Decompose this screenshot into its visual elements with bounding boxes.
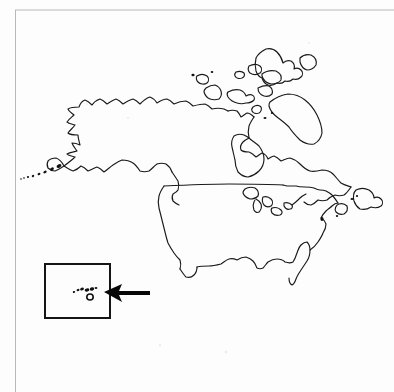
map-figure-canvas (0, 0, 394, 392)
island-lanai-icon (95, 287, 98, 289)
greenland-edge (300, 55, 316, 70)
st-lawrence-river (292, 194, 306, 205)
lake-michigan (253, 199, 261, 212)
us-east-coast (310, 203, 338, 250)
border-49th-parallel (164, 184, 283, 186)
alaska-peninsula-tip (47, 158, 64, 171)
nova-scotia (335, 204, 347, 215)
hudson-bay (232, 134, 264, 177)
gulf-st-lawrence-coast (304, 187, 351, 205)
lake-huron (262, 197, 272, 207)
somerset-island (262, 71, 281, 84)
lake-erie (271, 208, 282, 216)
island-maui-icon (90, 287, 95, 291)
region-contiguous-united-states (158, 185, 338, 285)
northeast-coast (283, 185, 338, 203)
newfoundland (353, 189, 382, 210)
island-hawaii-big-island-icon (87, 294, 93, 300)
canada-northeast-coast (241, 117, 351, 187)
gulf-coast-and-florida (197, 242, 310, 285)
paper-specks (86, 42, 310, 353)
alaska-south-coast (64, 160, 172, 172)
alaska-north-coast (64, 97, 228, 166)
victoria-island (227, 90, 254, 104)
hawaii-inset-group[interactable] (45, 264, 110, 318)
region-canada (191, 49, 382, 217)
prince-of-wales-island (258, 86, 272, 97)
southampton-small-island (252, 106, 262, 114)
hawaiian-islands-group (73, 287, 98, 300)
lake-superior (243, 187, 258, 199)
small-arctic-island-a (196, 75, 208, 85)
lake-ontario (284, 203, 292, 210)
island-niihau-icon (76, 288, 80, 291)
island-oahu-icon (80, 287, 85, 291)
us-west-coast (158, 186, 181, 269)
region-alaska (47, 97, 228, 205)
banks-island (204, 85, 221, 100)
baja-and-gulf-coast-west (180, 267, 197, 277)
alaska-panhandle (172, 172, 179, 205)
canada-arctic-coast-west (228, 110, 254, 117)
ellesmere-island (255, 49, 302, 86)
figure-root: North America outline map with Hawaii in… (0, 0, 394, 392)
prince-patrick-island (235, 71, 245, 78)
island-kauai-icon (73, 291, 76, 294)
region-aleutian-islands (20, 163, 62, 179)
baffin-island (269, 94, 322, 144)
island-molokai-icon (84, 288, 89, 292)
us-canada-border (164, 184, 283, 186)
